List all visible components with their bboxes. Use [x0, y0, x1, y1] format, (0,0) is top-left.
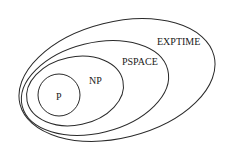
- np-label: NP: [89, 75, 102, 86]
- p-label: P: [56, 91, 62, 102]
- exptime-label: EXPTIME: [157, 36, 200, 47]
- exptime-ellipse: [6, 0, 228, 146]
- pspace-label: PSPACE: [122, 56, 158, 67]
- pspace-ellipse: [11, 26, 178, 146]
- np-ellipse: [20, 48, 130, 135]
- complexity-diagram: EXPTIME PSPACE NP P: [0, 0, 229, 146]
